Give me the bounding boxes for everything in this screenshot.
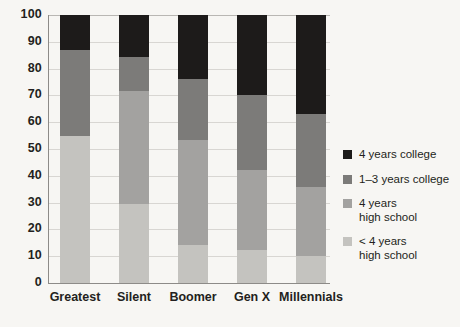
stacked-bar[interactable]: [296, 15, 326, 283]
bar-segment[interactable]: [119, 91, 149, 204]
bar-segment[interactable]: [178, 15, 208, 79]
stacked-bar-chart: 0102030405060708090100 GreatestSilentBoo…: [0, 0, 460, 327]
bar-group[interactable]: [178, 15, 208, 283]
legend-label: 4 years college: [359, 148, 455, 162]
y-tick-label: 90: [6, 34, 42, 48]
bar-segment[interactable]: [60, 50, 90, 136]
legend-swatch-icon: [343, 199, 352, 208]
bar-segment[interactable]: [119, 57, 149, 92]
legend-item[interactable]: 1–3 years college: [343, 173, 455, 187]
legend-swatch-icon: [343, 175, 352, 184]
legend-item[interactable]: 4 years college: [343, 148, 455, 162]
stacked-bar[interactable]: [60, 15, 90, 283]
bar-group[interactable]: [119, 15, 149, 283]
bar-group[interactable]: [60, 15, 90, 283]
y-tick-label: 50: [6, 141, 42, 155]
bar-segment[interactable]: [237, 250, 267, 284]
stacked-bar[interactable]: [237, 15, 267, 283]
bar-segment[interactable]: [178, 79, 208, 139]
legend-label: 4 years high school: [359, 197, 455, 224]
y-tick-label: 100: [6, 7, 42, 21]
bar-segment[interactable]: [296, 256, 326, 283]
legend-item[interactable]: < 4 years high school: [343, 235, 455, 262]
y-tick-label: 80: [6, 61, 42, 75]
bar-segment[interactable]: [296, 187, 326, 257]
y-tick-label: 0: [6, 275, 42, 289]
bar-segment[interactable]: [237, 170, 267, 249]
y-tick-label: 60: [6, 114, 42, 128]
bar-group[interactable]: [237, 15, 267, 283]
y-tick-label: 40: [6, 168, 42, 182]
legend-swatch-icon: [343, 150, 352, 159]
bar-segment[interactable]: [60, 15, 90, 50]
gridline-0: [48, 283, 330, 284]
legend-swatch-icon: [343, 237, 352, 246]
bar-segment[interactable]: [119, 204, 149, 283]
chart-legend: 4 years college1–3 years college4 years …: [343, 148, 455, 273]
bar-segment[interactable]: [296, 15, 326, 114]
y-axis-line: [48, 15, 49, 284]
y-tick-label: 70: [6, 87, 42, 101]
stacked-bar[interactable]: [178, 15, 208, 283]
stacked-bar[interactable]: [119, 15, 149, 283]
bar-group[interactable]: [296, 15, 326, 283]
bar-segment[interactable]: [237, 15, 267, 95]
x-tick-label: Millennials: [251, 290, 371, 304]
bar-segment[interactable]: [296, 114, 326, 186]
legend-label: 1–3 years college: [359, 173, 455, 187]
bar-segment[interactable]: [119, 15, 149, 57]
bar-segment[interactable]: [178, 245, 208, 283]
bar-segment[interactable]: [178, 140, 208, 246]
legend-item[interactable]: 4 years high school: [343, 197, 455, 224]
y-tick-label: 20: [6, 221, 42, 235]
bar-segment[interactable]: [237, 95, 267, 170]
legend-label: < 4 years high school: [359, 235, 455, 262]
y-tick-label: 10: [6, 248, 42, 262]
y-tick-label: 30: [6, 195, 42, 209]
bar-segment[interactable]: [60, 136, 90, 283]
